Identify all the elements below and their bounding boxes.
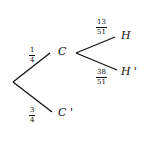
prob-c-to-h-prime: 38 51: [96, 69, 107, 86]
prob-denominator: 4: [30, 56, 34, 64]
node-c-prime: C ': [58, 107, 73, 118]
prob-numerator: 3: [29, 107, 35, 116]
node-h: H: [121, 30, 131, 41]
prob-numerator: 13: [96, 19, 107, 28]
prob-numerator: 1: [29, 47, 35, 56]
prob-c-to-h: 13 51: [96, 19, 107, 36]
prob-denominator: 4: [30, 116, 34, 124]
branch-c-to-h: [76, 37, 115, 53]
node-c: C: [58, 46, 66, 57]
node-h-prime: H ': [121, 66, 137, 77]
prob-numerator: 38: [96, 69, 107, 78]
prob-denominator: 51: [97, 28, 106, 36]
prob-denominator: 51: [97, 78, 106, 86]
prob-root-to-c: 1 4: [29, 47, 35, 64]
prob-root-to-c-prime: 3 4: [29, 107, 35, 124]
